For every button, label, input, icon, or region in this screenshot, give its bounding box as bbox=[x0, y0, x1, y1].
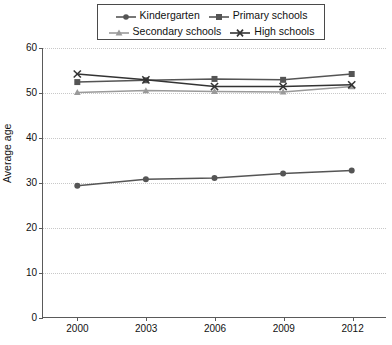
y-tick-label: 30 bbox=[26, 178, 37, 188]
legend-label-primary-schools: Primary schools bbox=[233, 10, 308, 21]
data-point-square bbox=[349, 71, 355, 77]
x-tick-mark bbox=[215, 317, 216, 321]
x-tick-label: 2000 bbox=[66, 324, 88, 334]
data-point-square bbox=[74, 79, 80, 85]
y-tick-label: 0 bbox=[31, 313, 37, 323]
legend-item-secondary-schools[interactable]: Secondary schools bbox=[108, 25, 222, 37]
legend-marker-x-icon bbox=[229, 25, 251, 37]
x-tick-label: 2003 bbox=[135, 324, 157, 334]
data-point-square bbox=[280, 77, 286, 83]
data-point-circle bbox=[280, 171, 286, 177]
legend-marker-circle-icon bbox=[115, 9, 137, 21]
data-point-circle bbox=[74, 183, 80, 189]
x-tick-mark bbox=[284, 317, 285, 321]
legend-row-2: Secondary schools High schools bbox=[104, 23, 318, 39]
series-secondary-schools bbox=[74, 83, 355, 95]
chart-legend: Kindergarten Primary schools bbox=[97, 4, 325, 40]
legend-label-secondary-schools: Secondary schools bbox=[133, 26, 222, 37]
series-kindergarten bbox=[74, 167, 354, 188]
legend-row-1: Kindergarten Primary schools bbox=[104, 7, 318, 23]
y-tick-label: 10 bbox=[26, 268, 37, 278]
legend-marker-square-icon bbox=[208, 9, 230, 21]
series-plot bbox=[43, 48, 386, 317]
legend-item-high-schools[interactable]: High schools bbox=[229, 25, 314, 37]
data-point-circle bbox=[349, 167, 355, 173]
x-tick-mark bbox=[77, 317, 78, 321]
x-tick-label: 2012 bbox=[341, 324, 363, 334]
legend-label-kindergarten: Kindergarten bbox=[140, 10, 200, 21]
x-tick-label: 2006 bbox=[204, 324, 226, 334]
data-point-square bbox=[212, 76, 218, 82]
y-axis-title: Average age bbox=[2, 124, 13, 183]
legend-item-kindergarten[interactable]: Kindergarten bbox=[115, 9, 200, 21]
y-tick-mark bbox=[39, 318, 43, 319]
plot-area: 0102030405060 20002003200620092012 bbox=[42, 48, 386, 318]
y-tick-label: 20 bbox=[26, 223, 37, 233]
x-tick-mark bbox=[146, 317, 147, 321]
y-tick-label: 50 bbox=[26, 88, 37, 98]
legend-marker-triangle-icon bbox=[108, 25, 130, 37]
legend-item-primary-schools[interactable]: Primary schools bbox=[208, 9, 308, 21]
x-tick-label: 2009 bbox=[273, 324, 295, 334]
data-point-circle bbox=[143, 176, 149, 182]
y-tick-label: 60 bbox=[26, 43, 37, 53]
x-tick-mark bbox=[353, 317, 354, 321]
legend-label-high-schools: High schools bbox=[254, 26, 314, 37]
chart-container: Kindergarten Primary schools bbox=[0, 0, 392, 345]
data-point-circle bbox=[212, 175, 218, 181]
y-tick-label: 40 bbox=[26, 133, 37, 143]
